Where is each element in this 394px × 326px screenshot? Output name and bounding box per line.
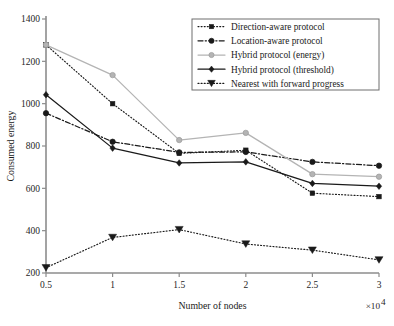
marker-square — [377, 194, 382, 199]
series-4 — [42, 226, 383, 271]
y-tick-label: 1000 — [21, 99, 40, 109]
y-axis-title: Consumed energy — [5, 110, 16, 181]
cropped-caption — [0, 317, 394, 326]
marker-circle — [310, 171, 315, 176]
legend-label: Location-aware protocol — [231, 36, 323, 46]
marker-diamond — [310, 180, 315, 187]
series-1 — [43, 110, 381, 168]
y-tick-label: 1400 — [21, 14, 40, 24]
x-multiplier-exponent: 4 — [381, 297, 386, 307]
y-tick-label: 200 — [26, 268, 41, 278]
legend-label: Direction-aware protocol — [231, 22, 325, 32]
legend-label: Nearest with forward progress — [231, 79, 344, 89]
marker-square — [110, 101, 115, 106]
marker-circle — [209, 52, 214, 57]
x-axis-title: Number of nodes — [178, 300, 246, 311]
marker-circle — [43, 42, 48, 47]
series-line — [46, 113, 379, 165]
x-tick-label: 0.5 — [40, 280, 52, 290]
legend: Direction-aware protocolLocation-aware p… — [192, 19, 379, 90]
marker-diamond — [243, 159, 248, 166]
marker-circle — [110, 139, 115, 144]
x-multiplier-label: ×10 — [366, 301, 381, 311]
marker-circle — [243, 149, 248, 154]
marker-circle — [209, 38, 214, 43]
marker-diamond — [176, 160, 181, 167]
y-tick-label: 600 — [26, 184, 41, 194]
legend-label: Hybrid protocol (threshold) — [231, 65, 334, 76]
x-tick-label: 2 — [243, 280, 248, 290]
marker-square — [310, 191, 315, 196]
legend-label: Hybrid protocol (energy) — [231, 50, 324, 61]
series-line — [46, 230, 379, 268]
marker-circle — [376, 174, 381, 179]
x-tick-label: 3 — [377, 280, 382, 290]
y-tick-label: 400 — [26, 226, 41, 236]
marker-circle — [177, 150, 182, 155]
marker-diamond — [376, 183, 381, 190]
chart-figure: 2004006008001000120014000.511.522.53Numb… — [0, 0, 394, 326]
series-line — [46, 95, 379, 186]
marker-circle — [43, 110, 48, 115]
marker-square — [209, 24, 213, 28]
marker-circle — [177, 137, 182, 142]
x-tick-label: 1 — [110, 280, 115, 290]
x-tick-label: 2.5 — [306, 280, 318, 290]
marker-circle — [110, 72, 115, 77]
y-tick-label: 1200 — [21, 57, 40, 67]
y-tick-label: 800 — [26, 141, 41, 151]
marker-circle — [376, 163, 381, 168]
marker-circle — [310, 159, 315, 164]
marker-circle — [243, 130, 248, 135]
line-chart: 2004006008001000120014000.511.522.53Numb… — [0, 0, 394, 326]
marker-triangle-down — [109, 234, 117, 241]
marker-triangle-down — [42, 265, 50, 272]
marker-triangle-down — [375, 257, 383, 264]
x-tick-label: 1.5 — [173, 280, 185, 290]
